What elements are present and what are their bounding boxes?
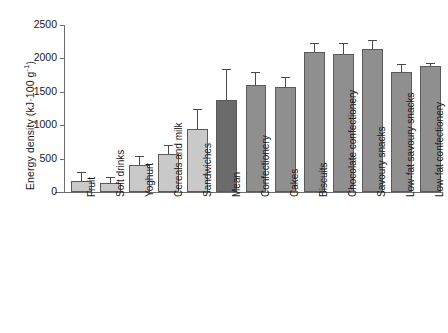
x-tick-label-soft-drinks: Soft drinks [115,150,126,197]
y-tick-1000: 1000 [60,125,64,126]
bar-group [275,25,296,192]
y-tick-label-1500: 1500 [34,85,57,98]
error-bar-line [401,65,402,72]
y-tick-label-1000: 1000 [34,118,57,131]
error-bar-cap [106,177,115,178]
y-tick-0: 0 [60,192,64,193]
x-tick-label-low-fat-savoury-snacks: Low-fat savoury snacks [405,93,416,198]
error-bar-line [168,146,169,153]
error-bar-cap [135,156,144,157]
x-tick-label-biscuits: Biscuits [318,163,329,197]
x-tick-label-fruit: Fruit [86,177,97,197]
y-tick-label-2000: 2000 [34,51,57,64]
y-tick-2000: 2000 [60,58,64,59]
error-bar-cap [222,69,231,70]
bar-group [216,25,237,192]
error-bar-line [110,178,111,183]
error-bar-line [81,173,82,180]
error-bar-line [226,70,227,100]
error-bar-line [285,78,286,87]
y-tick-label-500: 500 [39,152,57,165]
error-bar-cap [281,77,290,78]
error-bar-cap [164,145,173,146]
error-bar-line [314,44,315,51]
error-bar-cap [251,72,260,73]
x-tick-label-mean: Mean [231,172,242,197]
y-tick-1500: 1500 [60,92,64,93]
x-tick-label-confectionery: Confectionery [260,135,271,197]
x-tick-label-sandwiches: Sandwiches [202,143,213,197]
y-tick-label-0: 0 [51,185,57,198]
y-axis-line [64,25,65,192]
x-tick-label-chocolate-confectionery: Chocolate confectionery [347,90,358,197]
error-bar-cap [193,109,202,110]
x-tick-label-savoury-snacks: Savoury snacks [376,126,387,197]
error-bar-line [343,44,344,53]
error-bar-cap [397,64,406,65]
error-bar-line [255,73,256,85]
error-bar-cap [77,172,86,173]
x-tick-label-cereals-and-milk: Cereals and milk [173,123,184,197]
energy-density-bar-chart: Energy density (kJ·100 g-1) 050010001500… [0,0,448,333]
error-bar-line [139,157,140,165]
y-axis-label-exponent: -1 [22,65,31,72]
error-bar-cap [426,63,435,64]
y-tick-500: 500 [60,159,64,160]
error-bar-line [197,110,198,129]
x-tick-label-low-fat-confectionery: Low-fat confectionery [434,102,445,197]
bar-group [71,25,92,192]
error-bar-cap [368,40,377,41]
error-bar-line [372,41,373,49]
error-bar-cap [310,43,319,44]
x-tick-label-yoghurt: Yoghurt [144,163,155,197]
x-tick-label-cakes: Cakes [289,169,300,197]
y-tick-label-2500: 2500 [34,18,57,31]
error-bar-line [430,64,431,66]
y-tick-2500: 2500 [60,25,64,26]
error-bar-cap [339,43,348,44]
